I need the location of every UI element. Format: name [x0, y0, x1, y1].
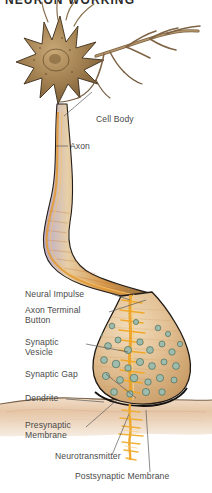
dendrite-branches-upper	[42, 0, 94, 26]
label-axon-terminal-button: Axon Terminal Button	[25, 306, 81, 326]
label-cell-body: Cell Body	[96, 115, 134, 125]
neuron-diagram-figure: NEURON WORKING	[0, 0, 212, 493]
label-synaptic-gap: Synaptic Gap	[25, 370, 78, 380]
axon-terminal-button-shape	[88, 292, 194, 406]
axon-shape	[43, 104, 152, 298]
label-axon: Axon	[70, 142, 90, 152]
label-neural-impulse: Neural Impulse	[25, 290, 84, 300]
label-postsynaptic-membrane: Postsynaptic Membrane	[75, 472, 169, 482]
cell-body-soma-shape	[16, 16, 104, 104]
label-neurotransmitter: Neurotransmitter	[55, 452, 121, 462]
label-presynaptic-membrane: Presynaptic Membrane	[25, 421, 71, 441]
label-synaptic-vesicle: Synaptic Vesicle	[25, 338, 59, 358]
label-dendrite: Dendrite	[25, 394, 58, 404]
